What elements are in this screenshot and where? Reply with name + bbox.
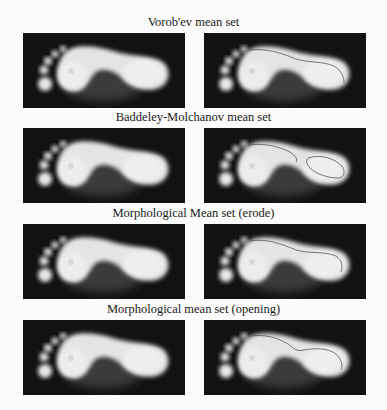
footprint-image-baddeley-left — [23, 128, 185, 203]
footprint-image-vorobev-left — [23, 33, 185, 108]
footprint-graphic — [23, 320, 185, 395]
footprint-image-vorobev-right — [204, 33, 366, 108]
footprint-graphic-with-contour — [204, 33, 366, 108]
footprint-image-opening-right — [204, 320, 366, 395]
footprint-image-baddeley-right — [204, 128, 366, 203]
footprint-graphic — [23, 128, 185, 203]
footprint-graphic — [23, 33, 185, 108]
caption-baddeley-molchanov-mean-set: Baddeley-Molchanov mean set — [0, 110, 387, 124]
footprint-image-opening-left — [23, 320, 185, 395]
footprint-graphic-with-contour — [204, 320, 366, 395]
caption-morphological-mean-set-erode: Morphological Mean set (erode) — [0, 206, 387, 220]
footprint-graphic-with-contour — [204, 224, 366, 299]
footprint-image-erode-right — [204, 224, 366, 299]
caption-morphological-mean-set-opening: Morphological mean set (opening) — [0, 302, 387, 316]
caption-vorobev-mean-set: Vorob'ev mean set — [0, 15, 387, 29]
footprint-graphic-with-contour — [204, 128, 366, 203]
footprint-graphic — [23, 224, 185, 299]
footprint-image-erode-left — [23, 224, 185, 299]
